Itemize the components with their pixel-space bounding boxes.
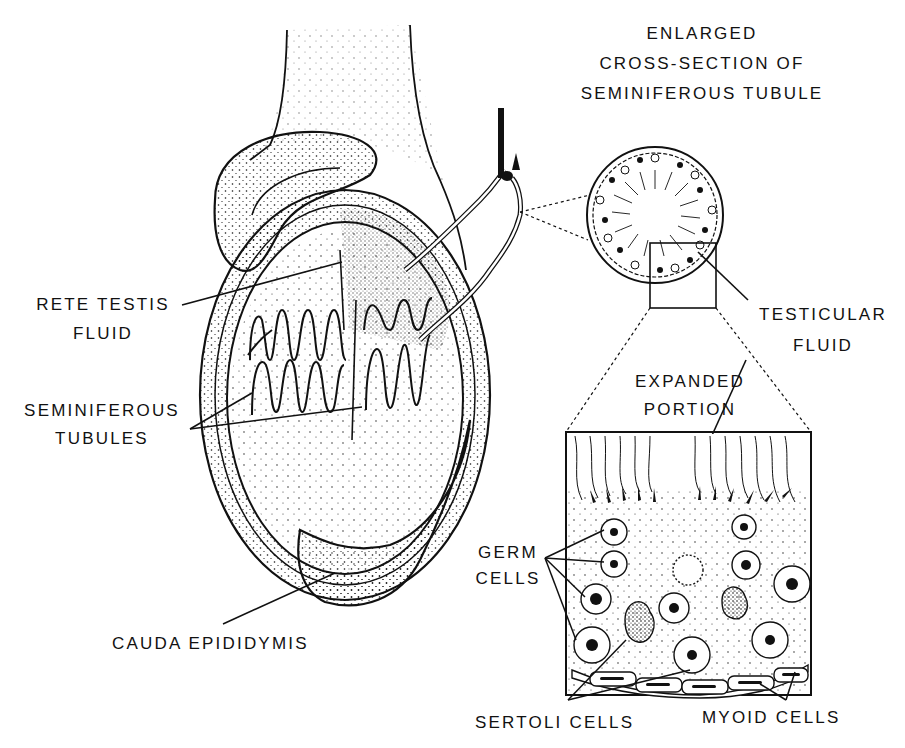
expanded-line-2: PORTION bbox=[620, 396, 760, 424]
seminiferous-tubules-label: SEMINIFEROUS TUBULES bbox=[12, 397, 192, 453]
tubules-line-1: SEMINIFEROUS bbox=[12, 397, 192, 425]
tubule-cross-section bbox=[587, 147, 723, 308]
testicular-fluid-leader-top bbox=[698, 252, 748, 300]
rete-testis-fluid-label: RETE TESTIS FLUID bbox=[18, 290, 188, 348]
title-line-3: SEMINIFEROUS TUBULE bbox=[572, 79, 832, 109]
rete-testis-line-2: FLUID bbox=[18, 319, 188, 348]
expanded-portion-box bbox=[566, 432, 811, 698]
cauda-epididymis-label: CAUDA EPIDIDYMIS bbox=[112, 633, 309, 655]
expanded-line-1: EXPANDED bbox=[620, 368, 760, 396]
germ-line-2: CELLS bbox=[468, 566, 548, 592]
rete-testis-line-1: RETE TESTIS bbox=[18, 290, 188, 319]
title-line-2: CROSS-SECTION OF bbox=[572, 49, 832, 79]
cross-section-title: ENLARGED CROSS-SECTION OF SEMINIFEROUS T… bbox=[572, 19, 832, 109]
testicular-fluid-label: TESTICULAR FLUID bbox=[748, 299, 898, 361]
expanded-portion-label: EXPANDED PORTION bbox=[620, 368, 760, 424]
tubules-line-2: TUBULES bbox=[12, 425, 192, 453]
myoid-cells-label: MYOID CELLS bbox=[702, 707, 841, 729]
testicular-line-1: TESTICULAR bbox=[748, 299, 898, 330]
title-line-1: ENLARGED bbox=[572, 19, 832, 49]
testicular-line-2: FLUID bbox=[748, 330, 898, 361]
germ-line-1: GERM bbox=[468, 540, 548, 566]
sertoli-cells-label: SERTOLI CELLS bbox=[475, 712, 634, 734]
germ-cells-label: GERM CELLS bbox=[468, 540, 548, 592]
